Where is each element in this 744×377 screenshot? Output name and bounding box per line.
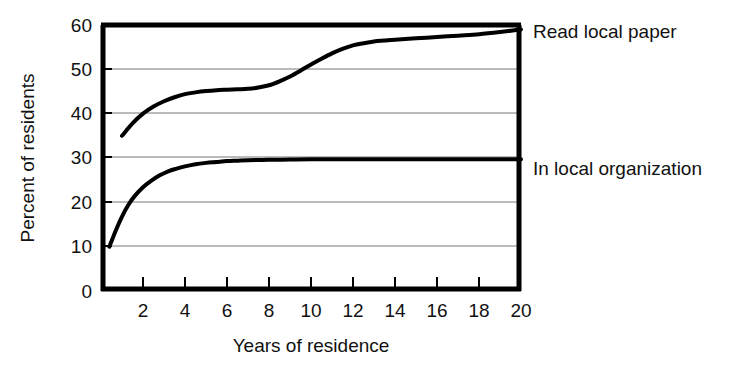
xtick-label-8: 8 <box>264 300 275 321</box>
ytick-label-50: 50 <box>71 59 92 80</box>
xtick-label-4: 4 <box>180 300 191 321</box>
xtick-label-16: 16 <box>426 300 447 321</box>
x-tick-labels: 2 4 6 8 10 12 14 16 18 20 <box>138 300 532 321</box>
xtick-label-20: 20 <box>510 300 531 321</box>
ytick-label-20: 20 <box>71 192 92 213</box>
series-label-read-local-paper: Read local paper <box>533 21 677 42</box>
ytick-label-30: 30 <box>71 147 92 168</box>
y-tick-labels: 60 50 40 30 20 10 0 <box>71 15 92 302</box>
chart-figure: 60 50 40 30 20 10 0 2 4 6 8 10 12 14 16 … <box>0 0 744 377</box>
xtick-label-10: 10 <box>300 300 321 321</box>
xtick-label-6: 6 <box>222 300 233 321</box>
xtick-label-2: 2 <box>138 300 149 321</box>
x-axis-title: Years of residence <box>233 335 390 356</box>
series-label-in-local-organization: In local organization <box>533 158 702 179</box>
xtick-label-18: 18 <box>468 300 489 321</box>
xtick-label-14: 14 <box>384 300 406 321</box>
ytick-label-10: 10 <box>71 236 92 257</box>
xtick-label-12: 12 <box>342 300 363 321</box>
ytick-label-0: 0 <box>81 281 92 302</box>
ytick-label-40: 40 <box>71 103 92 124</box>
ytick-label-60: 60 <box>71 15 92 36</box>
y-axis-title: Percent of residents <box>17 74 38 243</box>
line-chart: 60 50 40 30 20 10 0 2 4 6 8 10 12 14 16 … <box>0 0 744 377</box>
